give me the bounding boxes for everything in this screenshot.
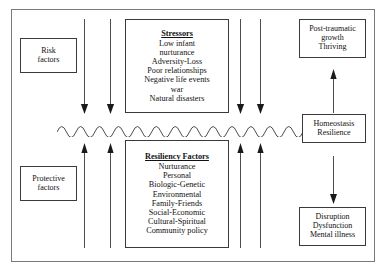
homeostasis-line-2: Resilience: [317, 129, 350, 138]
stressors-item-0: Low infant: [159, 39, 195, 48]
arrow-up-icon-3: [236, 143, 245, 248]
box-post-traumatic-growth: Post-traumatic growth Thriving: [299, 19, 366, 58]
homeostasis-wave: [57, 119, 303, 137]
arrow-down-icon-1: [80, 19, 89, 115]
post-traumatic-line-3: Thriving: [319, 43, 347, 52]
box-risk-factors: Risk factors: [20, 38, 77, 73]
stressors-item-5: war: [171, 85, 183, 94]
resiliency-factors-item-4: Family-Friends: [152, 199, 203, 208]
arrow-down-icon-3: [236, 19, 245, 115]
resiliency-factors-item-3: Environmental: [153, 190, 202, 199]
resiliency-factors-item-0: Nurturance: [159, 162, 196, 171]
arrow-down-icon-2: [106, 19, 115, 115]
stressors-item-3: Poor relationships: [147, 66, 206, 75]
resiliency-factors-item-7: Community policy: [146, 226, 208, 235]
resiliency-factors-item-6: Cultural-Spiritual: [148, 217, 206, 226]
stressors-item-6: Natural disasters: [150, 94, 205, 103]
box-resiliency-factors: Resiliency Factors Nurturance Personal B…: [125, 140, 229, 248]
disruption-line-3: Mental illness: [310, 231, 355, 240]
arrow-up-icon-4: [256, 143, 265, 248]
risk-factors-line-2: factors: [38, 56, 60, 65]
resiliency-factors-item-1: Personal: [163, 171, 191, 180]
box-homeostasis-resilience: Homeostasis Resilience: [302, 114, 366, 143]
stressors-heading: Stressors: [161, 29, 193, 38]
resiliency-factors-item-2: Biologic-Genetic: [149, 180, 205, 189]
box-stressors: Stressors Low infant nurturance Adversit…: [125, 19, 229, 113]
arrow-up-icon-homeostasis-to-growth: [329, 69, 338, 113]
stressors-item-2: Adversity-Loss: [152, 57, 202, 66]
box-protective-factors: Protective factors: [20, 166, 77, 201]
arrow-down-icon-4: [256, 19, 265, 115]
resiliency-factors-item-5: Social-Economic: [149, 208, 205, 217]
box-disruption-dysfunction: Disruption Dysfunction Mental illness: [299, 207, 366, 246]
stressors-item-4: Negative life events: [144, 75, 209, 84]
arrow-up-icon-2: [106, 143, 115, 248]
resiliency-factors-heading: Resiliency Factors: [145, 152, 209, 161]
stressors-item-1: nurturance: [159, 48, 194, 57]
protective-factors-line-2: factors: [38, 184, 60, 193]
diagram-canvas: Risk factors Protective factors Stressor…: [0, 0, 386, 270]
arrow-up-icon-1: [80, 143, 89, 248]
arrow-down-icon-homeostasis-to-disruption: [329, 156, 338, 205]
